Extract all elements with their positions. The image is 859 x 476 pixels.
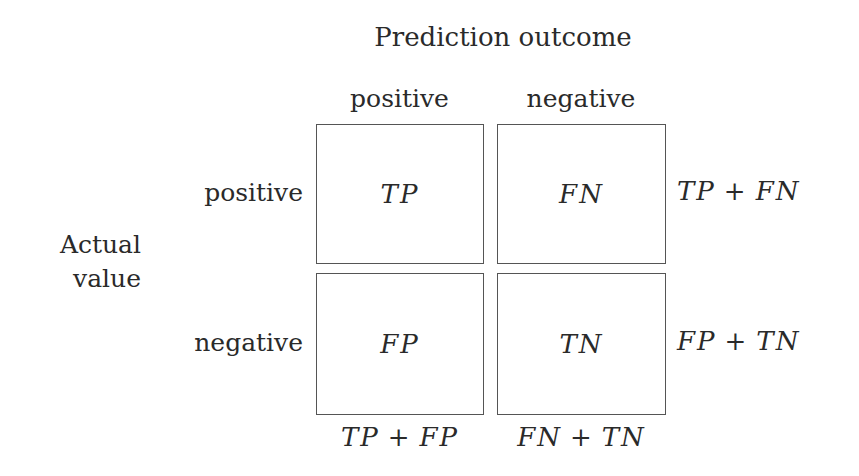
- sum-term: FP: [420, 422, 460, 452]
- cell-label: FP: [380, 329, 420, 359]
- column-sum-negative: FN+TN: [497, 422, 666, 452]
- cell-label: FN: [559, 179, 604, 209]
- row-header-positive: positive: [143, 178, 303, 207]
- cell-true-positive: TP: [316, 124, 484, 264]
- sum-term: FP: [677, 326, 717, 356]
- sum-term: TP: [677, 176, 716, 206]
- cell-true-negative: TN: [497, 273, 666, 415]
- actual-label: Actual: [0, 228, 141, 262]
- cell-label: TP: [381, 179, 420, 209]
- sum-term: TP: [341, 422, 380, 452]
- value-label: value: [0, 262, 141, 296]
- column-header-negative: negative: [497, 84, 665, 113]
- sum-term: TN: [602, 422, 646, 452]
- row-sum-negative: FP+TN: [677, 326, 800, 356]
- plus-operator: +: [570, 422, 594, 452]
- cell-false-negative: FN: [497, 124, 666, 264]
- cell-false-positive: FP: [316, 273, 484, 415]
- row-header-negative: negative: [143, 328, 303, 357]
- plus-operator: +: [725, 326, 749, 356]
- prediction-outcome-title: Prediction outcome: [300, 22, 706, 52]
- row-sum-positive: TP+FN: [677, 176, 800, 206]
- plus-operator: +: [388, 422, 412, 452]
- column-header-positive: positive: [316, 84, 483, 113]
- sum-term: FN: [517, 422, 562, 452]
- sum-term: TN: [756, 326, 800, 356]
- cell-label: TN: [559, 329, 603, 359]
- plus-operator: +: [724, 176, 748, 206]
- actual-value-axis-label: Actual value: [0, 228, 141, 296]
- sum-term: FN: [756, 176, 801, 206]
- column-sum-positive: TP+FP: [316, 422, 484, 452]
